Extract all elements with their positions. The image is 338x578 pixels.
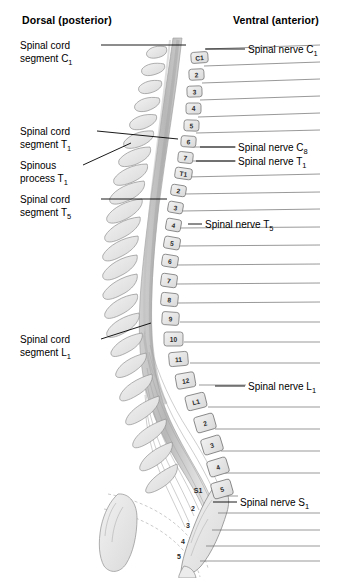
vertebra-8: 8 [160,292,178,307]
vertebra-2: 2 [170,184,187,197]
label-cord-t5: Spinal cordsegment T5 [20,194,71,219]
label-nerve-c1: Spinal nerve C1 [248,44,318,57]
sacral-label-5: 5 [177,553,181,560]
spinal-nerve-line [198,113,320,117]
vertebra-10: 10 [164,332,183,346]
label-nerve-l1: Spinal nerve L1 [248,381,316,394]
spinal-nerve-line [178,302,320,303]
label-spinous-t1: Spinousprocess T1 [20,160,68,185]
vertebra-7: 7 [177,151,193,164]
vertebra-9: 9 [162,311,180,325]
sacral-label-2: 2 [191,505,195,512]
header-dorsal: Dorsal (posterior) [22,14,112,26]
svg-text:5: 5 [190,122,194,129]
vertebra-6: 6 [161,254,179,268]
vertebra-6: 6 [181,135,197,147]
label-cord-t1: Spinal cordsegment T1 [20,126,71,151]
vertebra-L1: L1 [184,392,207,411]
vertebra-T1: T1 [174,167,192,180]
spinal-nerve-line [196,130,320,133]
label-nerve-s1: Spinal nerve S1 [240,497,309,510]
sacral-label-S1: S1 [194,487,203,494]
label-nerve-t5: Spinal nerve T5 [205,219,273,232]
svg-text:2: 2 [195,71,199,78]
label-nerve-t1: Spinal nerve T1 [238,156,306,169]
vertebra-7: 7 [160,273,178,288]
spinal-nerve-line [182,209,320,211]
vertebra-12: 12 [175,371,196,389]
header-ventral: Ventral (anterior) [233,14,319,26]
vertebra-11: 11 [168,351,188,367]
figure-canvas: C1234567T123456789101112L12345 S12345 Do… [0,0,338,578]
label-cord-c1: Spinal cordsegment C1 [20,40,73,65]
spinal-nerve-line [184,192,320,194]
sacral-label-4: 4 [181,538,185,545]
svg-text:4: 4 [192,105,196,112]
spinal-nerve-line [202,79,320,83]
spinal-nerve-line [177,264,320,265]
vertebra-4: 4 [186,103,201,114]
vertebra-5: 5 [163,236,181,251]
sacrum-dorsal-mass [99,494,137,571]
spine-illustration: C1234567T123456789101112L12345 S12345 [0,0,338,578]
label-cord-l1: Spinal cordsegment L1 [20,334,71,359]
vertebra-2: 2 [189,69,205,81]
spinal-nerve-line [177,283,320,284]
vertebra-2: 2 [193,413,217,434]
vertebra-5: 5 [184,120,199,132]
svg-text:10: 10 [170,336,178,343]
spinal-nerve-line [204,62,320,66]
svg-text:T1: T1 [179,170,188,178]
spinal-nerve-line [187,174,320,177]
vertebra-4: 4 [206,456,230,477]
vertebra-3: 3 [187,86,202,98]
vertebra-3: 3 [167,201,184,214]
spinal-nerve-line [178,245,320,246]
vertebra-4: 4 [165,218,182,232]
vertebra-3: 3 [200,434,224,455]
svg-text:3: 3 [193,88,197,95]
spinal-nerve-line [200,96,320,100]
label-nerve-c8: Spinal nerve C8 [238,142,308,155]
svg-text:C1: C1 [195,54,204,62]
svg-text:11: 11 [175,356,183,364]
vertebra-C1: C1 [191,51,209,63]
sacral-label-3: 3 [186,522,190,529]
